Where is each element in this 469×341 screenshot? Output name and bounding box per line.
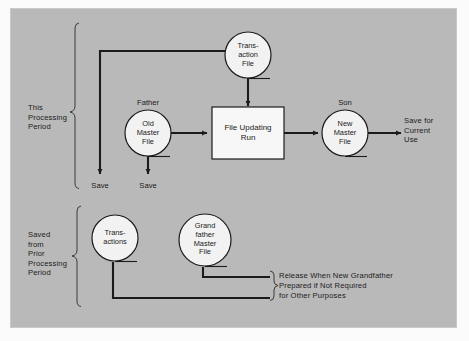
brace-release-note bbox=[270, 271, 278, 301]
connector-grandfather-to-release bbox=[203, 267, 270, 277]
diagram-vector-layer bbox=[0, 0, 469, 341]
brace-this-processing-period bbox=[70, 23, 79, 189]
node-transactions[interactable] bbox=[92, 215, 138, 261]
annotation-save-old-master: Save bbox=[139, 181, 156, 190]
label-file-updating-run: File Updating Run bbox=[212, 123, 284, 143]
annotation-release-note: Release When New Grandfather Prepared if… bbox=[279, 271, 393, 302]
node-new-master-file[interactable] bbox=[322, 110, 368, 156]
connector-transaction-to-save bbox=[100, 51, 226, 174]
diagram-canvas: This Processing Period Saved from Prior … bbox=[0, 0, 469, 341]
node-old-master-file[interactable] bbox=[125, 110, 171, 156]
node-transaction-file[interactable] bbox=[225, 32, 271, 78]
group-label-this-processing-period: This Processing Period bbox=[28, 103, 67, 132]
group-label-prior-processing-period: Saved from Prior Processing Period bbox=[28, 230, 67, 278]
connector-transactions-to-release bbox=[113, 262, 270, 298]
caption-father: Father bbox=[137, 98, 159, 107]
annotation-save-for-current-use: Save for Current Use bbox=[404, 116, 433, 145]
brace-prior-processing-period bbox=[72, 206, 81, 307]
node-grandfather-master-file[interactable] bbox=[179, 214, 231, 266]
caption-son: Son bbox=[338, 98, 352, 107]
annotation-save-transactions: Save bbox=[91, 181, 108, 190]
